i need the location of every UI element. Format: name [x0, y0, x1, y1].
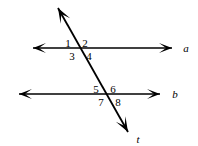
angle-label-2: 2 — [79, 38, 91, 49]
angle-label-5: 5 — [90, 84, 102, 95]
angle-label-6: 6 — [107, 84, 119, 95]
geometry-diagram: 1 2 3 4 5 6 7 8 a b t — [0, 0, 198, 146]
angle-label-4: 4 — [83, 51, 95, 62]
angle-label-7: 7 — [95, 97, 107, 108]
angle-label-1: 1 — [62, 38, 74, 49]
line-a — [33, 43, 172, 53]
line-label-t: t — [132, 134, 144, 145]
line-t-top-arrowhead — [58, 8, 70, 24]
line-t-bottom-arrowhead — [116, 116, 128, 132]
line-label-b: b — [169, 89, 181, 100]
line-t-segment — [58, 8, 128, 132]
angle-label-8: 8 — [112, 97, 124, 108]
angle-label-3: 3 — [66, 51, 78, 62]
line-label-a: a — [180, 43, 192, 54]
line-t — [58, 8, 128, 132]
geometry-canvas — [0, 0, 198, 146]
